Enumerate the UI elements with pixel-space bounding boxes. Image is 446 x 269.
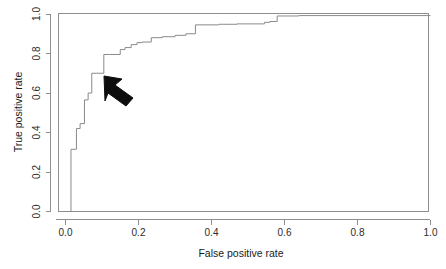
roc-plot-figure: 0.0 0.2 0.4 0.6 0.8 1.0 False positive r… (0, 0, 446, 269)
y-tick-label-3: 0.6 (31, 86, 42, 100)
pointer-arrow-annotation (104, 76, 133, 106)
y-tick-label-0: 0.0 (31, 204, 42, 218)
x-axis-title: False positive rate (198, 247, 283, 259)
pointer-arrow-icon (104, 76, 133, 106)
y-axis-title: True positive rate (12, 71, 24, 152)
x-tick-label-3: 0.6 (278, 227, 292, 238)
x-tick-label-2: 0.4 (205, 227, 219, 238)
roc-curve (66, 16, 431, 212)
plot-frame (59, 14, 429, 212)
x-tick-label-5: 1.0 (424, 227, 438, 238)
y-tick-label-1: 0.2 (31, 165, 42, 179)
x-axis: 0.0 0.2 0.4 0.6 0.8 1.0 False positive r… (56, 220, 438, 260)
y-axis: 0.0 0.2 0.4 0.6 0.8 1.0 True positive ra… (12, 7, 51, 219)
x-tick-label-4: 0.8 (351, 227, 365, 238)
y-tick-label-2: 0.4 (31, 125, 42, 139)
x-tick-label-1: 0.2 (132, 227, 146, 238)
y-axis-ticks (46, 14, 51, 212)
y-tick-label-5: 1.0 (31, 7, 42, 21)
x-tick-label-0: 0.0 (59, 227, 73, 238)
y-tick-label-4: 0.8 (31, 46, 42, 60)
roc-plot-canvas: 0.0 0.2 0.4 0.6 0.8 1.0 False positive r… (0, 0, 446, 269)
x-axis-ticks (66, 220, 431, 225)
